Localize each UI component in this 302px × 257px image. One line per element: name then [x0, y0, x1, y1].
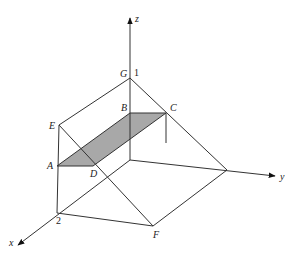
label-c: C — [170, 102, 177, 113]
x-axis — [18, 160, 130, 245]
label-y: y — [279, 171, 285, 182]
edge-xtwo-f — [57, 213, 153, 226]
label-g: G — [120, 68, 127, 79]
label-b: B — [121, 102, 127, 113]
edge-e-xtwo — [57, 125, 59, 213]
edge-g-e — [59, 78, 130, 125]
label-a: A — [46, 160, 54, 171]
label-x-two: 2 — [56, 215, 61, 226]
label-f: F — [152, 229, 160, 240]
label-d: D — [89, 168, 98, 179]
prism-diagram: z y x G 1 B C E A D 2 F — [0, 0, 302, 257]
y-axis — [130, 160, 275, 176]
label-e: E — [48, 120, 55, 131]
label-z-one: 1 — [134, 67, 139, 78]
edge-f-yvertex — [153, 170, 227, 226]
shaded-plane-abcd — [57, 113, 166, 166]
label-z: z — [134, 13, 139, 24]
label-x: x — [8, 237, 14, 248]
